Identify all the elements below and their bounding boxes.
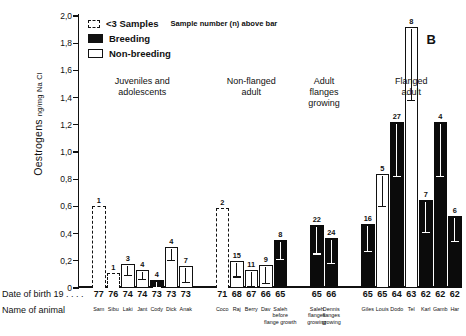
error-bar	[382, 176, 383, 206]
y-axis-title: Oestrogens ng/mg Na Cl	[32, 34, 44, 214]
error-bar-cap	[167, 260, 175, 261]
animal-name-value: Dick	[166, 306, 176, 312]
y-tick	[73, 151, 79, 152]
y-tick	[73, 124, 79, 125]
date-of-birth-value: 74	[123, 289, 133, 299]
error-bar-cap	[422, 232, 430, 233]
error-bar-cap	[182, 282, 190, 283]
sample-size-label: 1	[111, 263, 115, 272]
y-tick-label: 1,4	[46, 93, 72, 103]
legend-item-nonbreeding: Non-breeding	[88, 46, 277, 61]
animal-name-value: Dodo	[390, 306, 403, 312]
error-bar-cap	[378, 206, 386, 207]
y-tick-label: 0,6	[46, 201, 72, 211]
animal-name-value: Giles	[362, 306, 374, 312]
error-bar-cap	[313, 253, 321, 254]
date-of-birth-value: 65	[312, 289, 322, 299]
animal-name-value: Har	[450, 306, 459, 312]
error-bar-cap	[451, 241, 459, 242]
date-of-birth-value: 76	[108, 289, 118, 299]
y-axis-title-units: ng/mg Na Cl	[35, 72, 44, 116]
sample-size-label: 6	[453, 206, 457, 215]
sample-size-label: 7	[424, 190, 428, 199]
date-of-birth-value: 71	[217, 289, 227, 299]
error-bar	[142, 272, 143, 279]
animal-name-value: Anak	[180, 306, 192, 312]
group-title-line: Juveniles and	[87, 76, 197, 87]
sample-size-label: 1	[97, 196, 101, 205]
y-tick-label: 1,8	[46, 38, 72, 48]
sample-size-label: 9	[264, 255, 268, 264]
legend: <3 Samples Sample number (n) above bar B…	[88, 16, 277, 61]
error-bar	[251, 272, 252, 286]
y-tick-label: 2,0	[46, 11, 72, 21]
y-tick	[73, 206, 79, 207]
sample-size-label: 4	[155, 270, 159, 279]
error-bar-cap	[327, 263, 335, 264]
y-tick-label: 1,0	[46, 147, 72, 157]
y-tick-label: 0,8	[46, 174, 72, 184]
row-label-animal-name: Name of animal	[2, 305, 65, 315]
animal-name-value: Karl	[421, 306, 431, 312]
error-bar	[454, 218, 455, 241]
group-title: Juveniles andadolescents	[87, 76, 197, 98]
sample-size-label: 4	[140, 260, 144, 269]
y-tick	[73, 233, 79, 234]
panel-letter: B	[427, 32, 436, 47]
date-of-birth-value: 74	[137, 289, 147, 299]
error-bar	[236, 263, 237, 277]
animal-name-value: Raj	[233, 306, 241, 312]
animal-name-value: Louis	[376, 306, 389, 312]
error-bar	[331, 240, 332, 263]
date-of-birth-value: 65	[377, 289, 387, 299]
sample-size-label: 5	[380, 164, 384, 173]
sample-size-label: 15	[233, 251, 241, 260]
animal-name-value: Sibu	[108, 306, 119, 312]
error-bar	[185, 268, 186, 282]
error-bar	[396, 124, 397, 176]
dashed-swatch-icon	[88, 20, 100, 28]
date-of-birth-value: 62	[435, 289, 445, 299]
error-bar-cap	[247, 286, 255, 287]
y-tick-label: 1,6	[46, 65, 72, 75]
date-of-birth-value: 73	[152, 289, 162, 299]
bar	[216, 208, 230, 288]
group-title: Flangedadult	[356, 76, 466, 98]
group-title-line: growing	[269, 98, 379, 109]
filled-swatch-icon	[88, 34, 103, 43]
error-bar-cap	[407, 100, 415, 101]
plot-area: 00,20,40,60,81,01,21,41,61,82,0 11344472…	[78, 14, 448, 288]
date-of-birth-value: 64	[392, 289, 402, 299]
animal-name-value: Gamb	[433, 306, 448, 312]
error-bar	[265, 267, 266, 283]
error-bar-cap	[233, 276, 241, 277]
error-bar	[171, 249, 172, 260]
animal-name-value: Salehbeforeflange growth	[264, 306, 296, 325]
open-swatch-icon	[88, 49, 103, 58]
y-axis-title-main: Oestrogens	[32, 119, 44, 175]
y-tick-label: 0,2	[46, 256, 72, 266]
error-bar-cap	[364, 251, 372, 252]
date-of-birth-value: 66	[261, 289, 271, 299]
date-of-birth-value: 66	[326, 289, 336, 299]
error-bar-cap	[138, 279, 146, 280]
animal-name-value: Sam	[93, 306, 104, 312]
legend-note: Sample number (n) above bar	[171, 19, 278, 28]
y-tick-label: 1,2	[46, 120, 72, 130]
y-tick	[73, 97, 79, 98]
date-of-birth-value: 77	[94, 289, 104, 299]
bar	[107, 273, 121, 288]
error-bar-cap	[262, 283, 270, 284]
sample-size-label: 8	[278, 230, 282, 239]
date-of-birth-value: 63	[406, 289, 416, 299]
date-of-birth-value: 62	[450, 289, 460, 299]
legend-item-breeding: Breeding	[88, 31, 277, 46]
animal-name-value: Cody	[150, 306, 163, 312]
y-tick	[73, 15, 79, 16]
sample-size-label: 24	[327, 228, 335, 237]
date-of-birth-value: 73	[181, 289, 191, 299]
y-tick	[73, 70, 79, 71]
error-bar	[367, 226, 368, 250]
animal-name-value: Laki	[123, 306, 133, 312]
date-of-birth-value: 62	[421, 289, 431, 299]
